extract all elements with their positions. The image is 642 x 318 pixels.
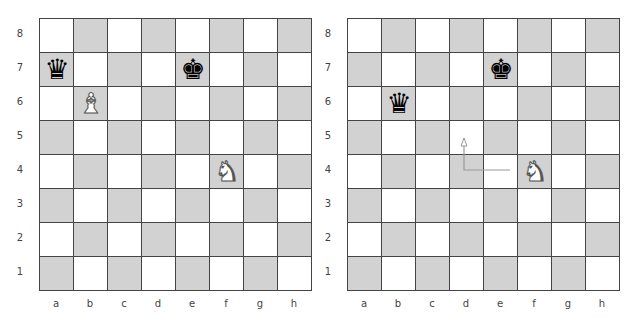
black-king-icon[interactable]: ♚ xyxy=(176,53,210,87)
black-queen-icon[interactable]: ♛ xyxy=(40,53,74,87)
square-c4[interactable] xyxy=(108,155,142,189)
square-a2[interactable] xyxy=(348,223,382,257)
square-g2[interactable] xyxy=(552,223,586,257)
square-h3[interactable] xyxy=(586,189,620,223)
square-g5[interactable] xyxy=(552,121,586,155)
square-e2[interactable] xyxy=(484,223,518,257)
square-g8[interactable] xyxy=(552,19,586,53)
square-e8[interactable] xyxy=(176,19,210,53)
square-c6[interactable] xyxy=(108,87,142,121)
square-a5[interactable] xyxy=(40,121,74,155)
square-c2[interactable] xyxy=(108,223,142,257)
square-a5[interactable] xyxy=(348,121,382,155)
square-d3[interactable] xyxy=(450,189,484,223)
square-f5[interactable] xyxy=(518,121,552,155)
square-h6[interactable] xyxy=(586,87,620,121)
square-d4[interactable] xyxy=(142,155,176,189)
square-b2[interactable] xyxy=(382,223,416,257)
square-e3[interactable] xyxy=(176,189,210,223)
square-a3[interactable] xyxy=(40,189,74,223)
square-g8[interactable] xyxy=(244,19,278,53)
square-c5[interactable] xyxy=(416,121,450,155)
square-f6[interactable] xyxy=(210,87,244,121)
square-f3[interactable] xyxy=(518,189,552,223)
square-d1[interactable] xyxy=(142,257,176,291)
square-b5[interactable] xyxy=(382,121,416,155)
square-d3[interactable] xyxy=(142,189,176,223)
square-c7[interactable] xyxy=(416,53,450,87)
square-b7[interactable] xyxy=(74,53,108,87)
square-f6[interactable] xyxy=(518,87,552,121)
black-queen-icon[interactable]: ♛ xyxy=(382,87,416,121)
square-f2[interactable] xyxy=(518,223,552,257)
square-f3[interactable] xyxy=(210,189,244,223)
square-h1[interactable] xyxy=(278,257,312,291)
square-b1[interactable] xyxy=(74,257,108,291)
square-f1[interactable] xyxy=(210,257,244,291)
square-a1[interactable] xyxy=(348,257,382,291)
square-b5[interactable] xyxy=(74,121,108,155)
square-a8[interactable] xyxy=(40,19,74,53)
square-c6[interactable] xyxy=(416,87,450,121)
square-f5[interactable] xyxy=(210,121,244,155)
square-h4[interactable] xyxy=(586,155,620,189)
square-h4[interactable] xyxy=(278,155,312,189)
square-g6[interactable] xyxy=(244,87,278,121)
white-bishop-icon[interactable]: ♝ xyxy=(74,87,108,121)
square-c1[interactable] xyxy=(416,257,450,291)
square-c5[interactable] xyxy=(108,121,142,155)
square-c1[interactable] xyxy=(108,257,142,291)
square-e6[interactable] xyxy=(176,87,210,121)
square-a7[interactable] xyxy=(348,53,382,87)
square-c8[interactable] xyxy=(416,19,450,53)
square-b7[interactable] xyxy=(382,53,416,87)
square-d8[interactable] xyxy=(450,19,484,53)
square-d7[interactable] xyxy=(142,53,176,87)
square-e4[interactable] xyxy=(484,155,518,189)
square-g1[interactable] xyxy=(552,257,586,291)
square-c3[interactable] xyxy=(108,189,142,223)
white-knight-icon[interactable]: ♞ xyxy=(518,155,552,189)
square-d4[interactable] xyxy=(450,155,484,189)
square-f8[interactable] xyxy=(210,19,244,53)
square-e2[interactable] xyxy=(176,223,210,257)
square-a6[interactable] xyxy=(40,87,74,121)
square-d5[interactable] xyxy=(450,121,484,155)
square-f1[interactable] xyxy=(518,257,552,291)
square-g1[interactable] xyxy=(244,257,278,291)
square-b2[interactable] xyxy=(74,223,108,257)
square-g5[interactable] xyxy=(244,121,278,155)
square-a8[interactable] xyxy=(348,19,382,53)
square-a3[interactable] xyxy=(348,189,382,223)
square-b3[interactable] xyxy=(382,189,416,223)
square-g4[interactable] xyxy=(244,155,278,189)
square-e5[interactable] xyxy=(176,121,210,155)
square-e8[interactable] xyxy=(484,19,518,53)
square-a2[interactable] xyxy=(40,223,74,257)
square-h7[interactable] xyxy=(586,53,620,87)
square-d6[interactable] xyxy=(450,87,484,121)
square-h1[interactable] xyxy=(586,257,620,291)
square-g7[interactable] xyxy=(552,53,586,87)
square-e4[interactable] xyxy=(176,155,210,189)
square-c8[interactable] xyxy=(108,19,142,53)
square-h6[interactable] xyxy=(278,87,312,121)
square-e3[interactable] xyxy=(484,189,518,223)
square-d5[interactable] xyxy=(142,121,176,155)
square-h7[interactable] xyxy=(278,53,312,87)
square-g6[interactable] xyxy=(552,87,586,121)
square-b1[interactable] xyxy=(382,257,416,291)
square-h2[interactable] xyxy=(586,223,620,257)
square-g3[interactable] xyxy=(244,189,278,223)
square-g2[interactable] xyxy=(244,223,278,257)
square-c2[interactable] xyxy=(416,223,450,257)
black-king-icon[interactable]: ♚ xyxy=(484,53,518,87)
square-h8[interactable] xyxy=(278,19,312,53)
square-g3[interactable] xyxy=(552,189,586,223)
square-b4[interactable] xyxy=(74,155,108,189)
square-d7[interactable] xyxy=(450,53,484,87)
square-e5[interactable] xyxy=(484,121,518,155)
square-f7[interactable] xyxy=(210,53,244,87)
square-c4[interactable] xyxy=(416,155,450,189)
square-f8[interactable] xyxy=(518,19,552,53)
